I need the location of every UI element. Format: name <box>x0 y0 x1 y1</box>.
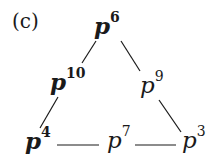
node-base: p <box>182 127 197 153</box>
node-exponent: 4 <box>41 124 51 140</box>
node-base: p <box>25 127 41 154</box>
edge-p6-p10 <box>82 41 96 63</box>
node-p4: p4 <box>25 129 51 152</box>
node-p6: p6 <box>94 14 120 37</box>
edge-p9-p3 <box>159 100 181 132</box>
node-base: p <box>94 12 110 39</box>
node-exponent: 7 <box>122 123 131 139</box>
node-p3: p3 <box>182 129 206 152</box>
node-p10: p10 <box>50 70 86 93</box>
node-exponent: 10 <box>66 65 85 81</box>
edge-p6-p9 <box>121 41 140 71</box>
node-base: p <box>107 127 122 153</box>
node-exponent: 9 <box>155 68 164 84</box>
node-p9: p9 <box>140 74 164 97</box>
node-exponent: 6 <box>110 9 120 25</box>
node-exponent: 3 <box>197 123 206 139</box>
node-base: p <box>140 72 155 98</box>
node-p7: p7 <box>107 129 131 152</box>
node-base: p <box>50 68 66 95</box>
